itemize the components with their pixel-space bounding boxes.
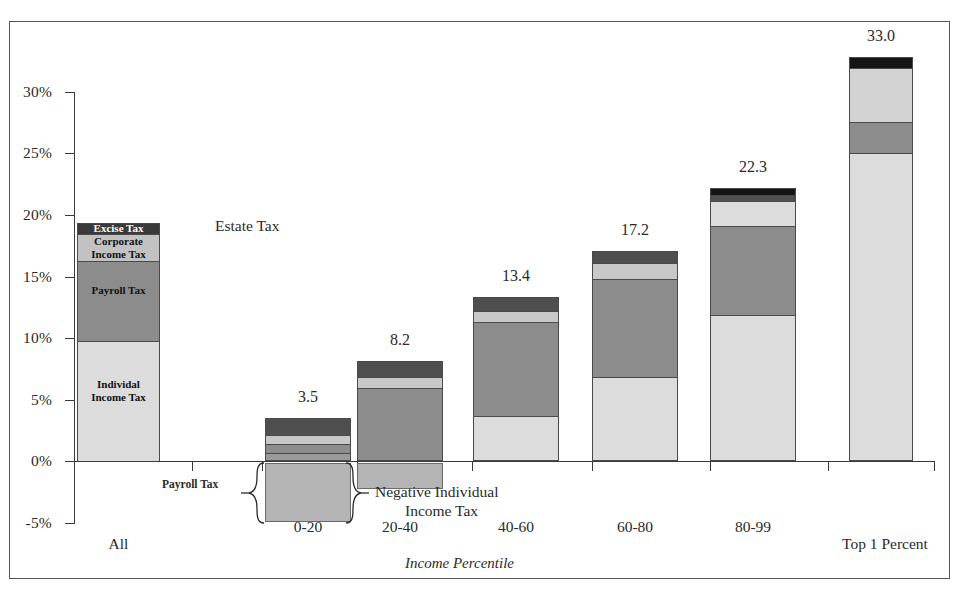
bar-80-99-segment-payroll-tax[interactable]	[710, 226, 796, 315]
y-tick-20	[65, 215, 74, 216]
bar-40-60[interactable]	[473, 297, 559, 461]
x-label-80-99: 80-99	[710, 518, 796, 536]
x-axis-title: Income Percentile	[405, 555, 514, 572]
y-tick-label-15: 15%	[0, 268, 52, 286]
bar-total-0-20: 3.5	[265, 388, 351, 406]
y-tick-label-neg5: -5%	[0, 514, 52, 532]
bar-all-segment-individual-income-tax[interactable]	[77, 341, 160, 461]
bar-0-20-segment-corporate-income-tax[interactable]	[265, 435, 351, 444]
bar-total-40-60: 13.4	[473, 267, 559, 285]
y-tick-label-5: 5%	[0, 391, 52, 409]
y-tick-label-25: 25%	[0, 144, 52, 162]
y-tick-neg5	[65, 523, 74, 524]
brace-payroll-tax-icon	[240, 462, 266, 524]
x-tick-1	[192, 462, 193, 471]
bar-top-1-percent[interactable]	[849, 57, 913, 461]
bar-60-80-segment-corporate-income-tax[interactable]	[592, 263, 678, 279]
annotation-negative-individual-line1: Negative Individual	[375, 483, 499, 501]
x-tick-4	[472, 462, 473, 471]
y-axis-line	[74, 92, 75, 524]
bar-60-80[interactable]	[592, 251, 678, 461]
x-label-20-40: 20-40	[357, 518, 443, 536]
bar-20-40-segment-excise-tax[interactable]	[357, 361, 443, 377]
x-label-60-80: 60-80	[592, 518, 678, 536]
bar-80-99-segment-corporate-income-tax[interactable]	[710, 201, 796, 226]
y-tick-10	[65, 338, 74, 339]
bar-top-1-percent-segment-payroll-tax[interactable]	[849, 122, 913, 153]
bar-all-segment-corporate-income-tax[interactable]	[77, 234, 160, 261]
bar-total-top-1-percent: 33.0	[849, 27, 913, 45]
x-tick-5	[592, 462, 593, 471]
bar-top-1-percent-segment-corporate-income-tax[interactable]	[849, 68, 913, 122]
brace-negative-individual-income-tax-icon	[344, 462, 370, 524]
x-label-all: All	[77, 535, 160, 553]
bar-20-40-segment-corporate-income-tax[interactable]	[357, 377, 443, 388]
bar-60-80-segment-individual-income-tax[interactable]	[592, 377, 678, 461]
y-tick-15	[65, 277, 74, 278]
negative-bar-0-20[interactable]	[265, 463, 351, 522]
bar-60-80-segment-payroll-tax[interactable]	[592, 279, 678, 377]
bar-20-40-segment-payroll-tax[interactable]	[357, 388, 443, 461]
x-axis-line	[74, 461, 935, 462]
bar-80-99-segment-individual-income-tax[interactable]	[710, 315, 796, 461]
x-label-top-1-percent: Top 1 Percent	[820, 535, 950, 553]
bar-0-20-segment-payroll-tax[interactable]	[265, 444, 351, 453]
x-tick-end	[934, 462, 935, 471]
bar-40-60-segment-excise-tax[interactable]	[473, 297, 559, 311]
bar-20-40[interactable]	[357, 361, 443, 461]
y-tick-30	[65, 92, 74, 93]
bar-top-1-percent-segment-excise-estate-tax[interactable]	[849, 57, 913, 68]
y-tick-label-20: 20%	[0, 206, 52, 224]
x-tick-6	[710, 462, 711, 471]
bar-top-1-percent-segment-individual-income-tax[interactable]	[849, 153, 913, 461]
bar-40-60-segment-corporate-income-tax[interactable]	[473, 311, 559, 322]
x-label-0-20: 0-20	[265, 518, 351, 536]
bar-80-99[interactable]	[710, 188, 796, 461]
annotation-payroll-tax-brace-label: Payroll Tax	[162, 478, 218, 491]
bar-80-99-segment-estate-tax[interactable]	[710, 188, 796, 195]
bar-total-80-99: 22.3	[710, 158, 796, 176]
bar-all-segment-payroll-tax[interactable]	[77, 261, 160, 341]
bar-total-20-40: 8.2	[357, 331, 443, 349]
y-tick-label-30: 30%	[0, 83, 52, 101]
y-tick-25	[65, 153, 74, 154]
x-tick-origin	[74, 462, 75, 471]
chart-plot-area: 30% 25% 20% 15% 10% 5% 0% -5% Excise Tax…	[0, 0, 960, 598]
bar-40-60-segment-payroll-tax[interactable]	[473, 322, 559, 416]
bar-60-80-segment-excise-tax[interactable]	[592, 251, 678, 263]
annotation-estate-tax: Estate Tax	[215, 217, 279, 235]
bar-0-20-segment-excise-tax[interactable]	[265, 418, 351, 435]
x-label-40-60: 40-60	[473, 518, 559, 536]
bar-0-20-segment-individual-income-tax[interactable]	[265, 453, 351, 461]
x-tick-7	[828, 462, 829, 471]
bar-0-20[interactable]	[265, 418, 351, 461]
bar-40-60-segment-individual-income-tax[interactable]	[473, 416, 559, 461]
bar-all[interactable]: Excise Tax Corporate Income Tax Payroll …	[77, 223, 160, 461]
y-tick-label-10: 10%	[0, 329, 52, 347]
y-tick-0	[65, 461, 74, 462]
y-tick-5	[65, 400, 74, 401]
bar-total-60-80: 17.2	[592, 221, 678, 239]
bar-all-segment-excise-tax[interactable]	[77, 223, 160, 234]
y-tick-label-0: 0%	[0, 452, 52, 470]
